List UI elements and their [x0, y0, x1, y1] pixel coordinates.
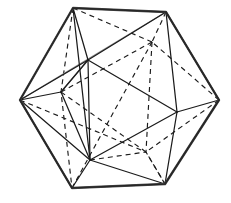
diagram-background	[0, 0, 231, 203]
figure-root: Icosahedron wireframe with inscribed pol…	[0, 0, 231, 203]
polyhedron-diagram	[0, 0, 231, 203]
